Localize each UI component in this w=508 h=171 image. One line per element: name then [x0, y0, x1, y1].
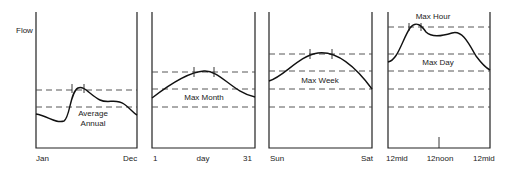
panel-day	[388, 12, 490, 148]
x-label-dec: Dec	[123, 155, 137, 163]
x-label-day-1: 1	[153, 155, 157, 163]
x-label-day: day	[197, 155, 210, 163]
x-label-sun: Sun	[270, 155, 284, 163]
x-label-jan: Jan	[36, 155, 49, 163]
x-label-sat: Sat	[361, 155, 373, 163]
annotation-max-month: Max Month	[184, 94, 224, 102]
x-label-12mid-start: 12mid	[386, 155, 408, 163]
y-axis-label: Flow	[16, 27, 33, 35]
x-label-12noon: 12noon	[427, 155, 454, 163]
annotation-annual: Annual	[81, 120, 106, 128]
x-label-day-31: 31	[243, 155, 252, 163]
annotation-max-day: Max Day	[422, 59, 454, 67]
annotation-max-week: Max Week	[301, 77, 339, 85]
x-label-12mid-end: 12mid	[473, 155, 495, 163]
flow-variation-diagram	[0, 0, 508, 171]
panel-day-frame	[388, 12, 490, 148]
annotation-average: Average	[78, 110, 108, 118]
panel-month-frame	[152, 12, 255, 148]
panel-month	[152, 12, 255, 148]
annotation-max-hour: Max Hour	[416, 13, 451, 21]
